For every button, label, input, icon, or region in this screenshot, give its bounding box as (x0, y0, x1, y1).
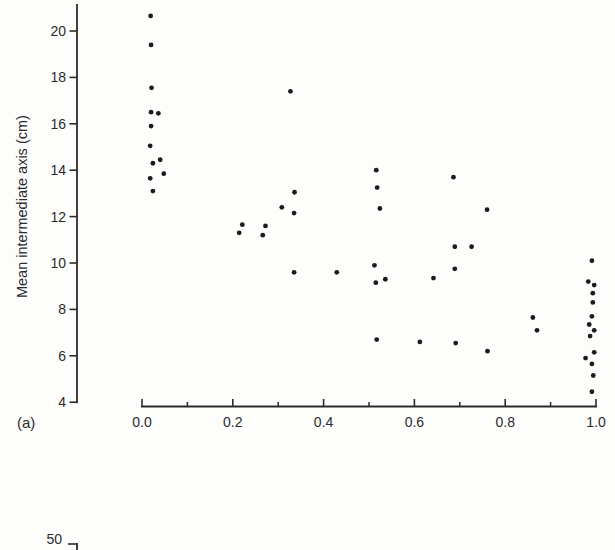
y-tick-label: 6 (58, 348, 66, 364)
data-point (374, 168, 379, 173)
data-point (590, 258, 595, 263)
data-point (587, 322, 592, 327)
y-tick-label: 14 (50, 162, 66, 178)
data-point (292, 190, 297, 195)
data-point (240, 222, 245, 227)
data-point (451, 175, 456, 180)
data-point (590, 362, 595, 367)
data-point (156, 111, 161, 116)
data-point (383, 277, 388, 282)
data-point (452, 266, 457, 271)
data-point (372, 263, 377, 268)
data-point (149, 43, 154, 48)
data-point (334, 270, 339, 275)
data-point (417, 339, 422, 344)
y-tick-label: 16 (50, 116, 66, 132)
data-point (453, 341, 458, 346)
y-tick-label: 4 (58, 394, 66, 410)
data-point (586, 279, 591, 284)
data-point (583, 356, 588, 361)
x-tick-label: 0.0 (132, 414, 152, 430)
data-point (150, 189, 155, 194)
data-point (535, 328, 540, 333)
data-point (292, 270, 297, 275)
data-point (485, 349, 490, 354)
data-point (263, 223, 268, 228)
data-point (158, 157, 163, 162)
figure-panel-a: 201816141210864Mean intermediate axis (c… (0, 0, 615, 550)
data-point (292, 211, 297, 216)
x-tick-label: 0.6 (405, 414, 425, 430)
data-point (148, 143, 153, 148)
data-point (590, 314, 595, 319)
x-tick-label: 0.4 (314, 414, 334, 430)
data-point (591, 373, 596, 378)
data-point (237, 230, 242, 235)
data-point (377, 206, 382, 211)
scatter-chart: 201816141210864Mean intermediate axis (c… (0, 0, 615, 550)
x-tick-label: 0.8 (495, 414, 515, 430)
data-point (590, 300, 595, 305)
y-tick-label: 10 (50, 255, 66, 271)
data-point (592, 328, 597, 333)
data-point (149, 124, 154, 129)
data-point (431, 276, 436, 281)
data-point (590, 389, 595, 394)
x-tick-label: 1.0 (586, 414, 606, 430)
y-tick-label: 8 (58, 301, 66, 317)
data-point (150, 161, 155, 166)
data-point (260, 233, 265, 238)
data-point (374, 337, 379, 342)
data-point (279, 205, 284, 210)
data-point (469, 244, 474, 249)
y-tick-label: 18 (50, 69, 66, 85)
data-point (592, 350, 597, 355)
data-point (149, 110, 154, 115)
y-tick-label: 12 (50, 209, 66, 225)
next-panel-tick-label: 50 (40, 531, 62, 547)
x-tick-label: 0.2 (223, 414, 243, 430)
data-point (149, 85, 154, 90)
data-point (148, 14, 153, 19)
data-point (485, 207, 490, 212)
data-point (452, 244, 457, 249)
data-point (530, 315, 535, 320)
data-point (592, 283, 597, 288)
data-point (288, 89, 293, 94)
y-tick-label: 20 (50, 23, 66, 39)
data-point (373, 280, 378, 285)
data-point (161, 171, 166, 176)
data-point (148, 176, 153, 181)
panel-label: (a) (17, 414, 35, 431)
data-point (590, 291, 595, 296)
y-axis-title: Mean intermediate axis (cm) (14, 115, 30, 298)
data-point (588, 334, 593, 339)
data-point (375, 185, 380, 190)
